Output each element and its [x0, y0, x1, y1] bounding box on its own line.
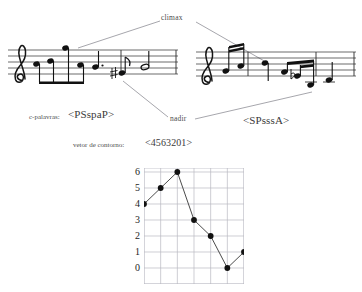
y-axis-tick-label: 4	[126, 199, 140, 209]
y-axis-tick-label: 5	[126, 183, 140, 193]
cpalavras-label: c-palavras:	[29, 113, 60, 121]
nadir-annotation: nadir	[170, 114, 186, 123]
treble-clef-icon	[15, 46, 25, 83]
y-axis-tick-label: 1	[126, 247, 140, 257]
data-point	[174, 169, 180, 175]
data-point	[224, 265, 230, 271]
music-staff-right	[196, 38, 356, 100]
music-staff-left	[8, 38, 178, 93]
contour-vector-value: <4563201>	[145, 137, 192, 148]
contour-word-right: <SPsssA>	[243, 114, 289, 126]
contour-word-left: <PSspaP>	[68, 108, 114, 120]
y-axis-tick-label: 6	[126, 167, 140, 177]
contour-vector-label: vetor de contorno:	[73, 141, 124, 149]
y-axis-tick-label: 0	[126, 263, 140, 273]
climax-annotation: climax	[161, 13, 183, 22]
y-axis-tick-label: 2	[126, 231, 140, 241]
figure-root: climax nadir	[0, 0, 362, 292]
contour-line-chart	[144, 168, 244, 284]
data-point	[158, 185, 164, 191]
y-axis-tick-label: 3	[126, 215, 140, 225]
data-point	[191, 217, 197, 223]
data-point	[208, 233, 214, 239]
treble-clef-icon	[202, 48, 212, 85]
